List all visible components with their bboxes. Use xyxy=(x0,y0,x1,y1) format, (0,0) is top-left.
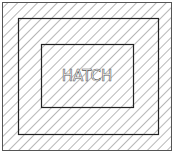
hatch-drawing: HATCH xyxy=(0,0,173,163)
hatch-label: HATCH xyxy=(62,67,112,85)
